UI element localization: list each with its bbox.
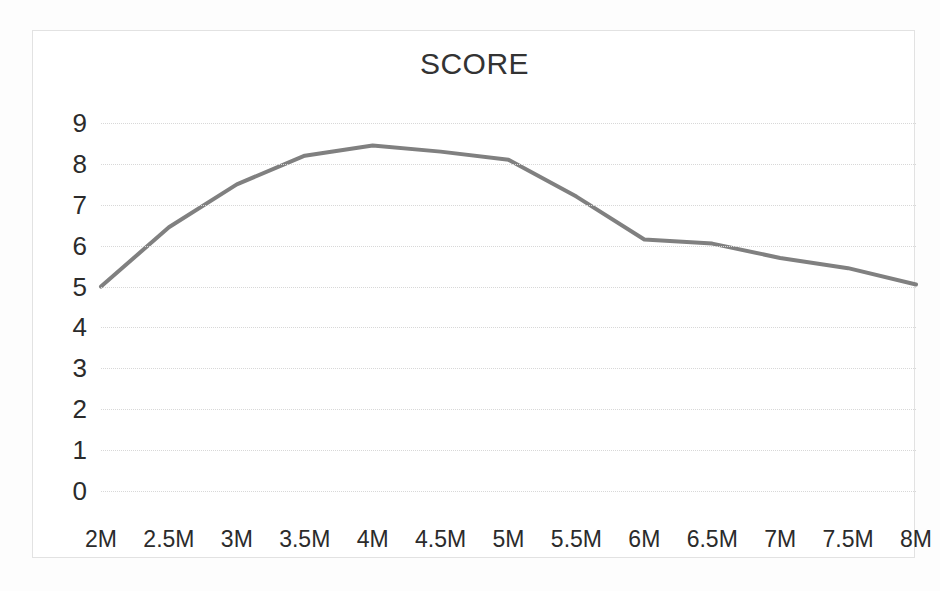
gridline-y-5 xyxy=(101,287,916,288)
gridline-y-2 xyxy=(101,409,916,410)
plot-area: 9876543210 xyxy=(101,123,916,491)
score-line-series xyxy=(101,123,916,491)
x-axis-tick-label: 5.5M xyxy=(551,528,602,551)
gridline-y-7 xyxy=(101,205,916,206)
x-axis-tick-label: 3.5M xyxy=(279,528,330,551)
gridline-y-4 xyxy=(101,327,916,328)
x-axis-tick-labels: 2M2.5M3M3.5M4M4.5M5M5.5M6M6.5M7M7.5M8M xyxy=(101,528,916,562)
chart-title: SCORE xyxy=(33,49,916,79)
x-axis-tick-label: 2.5M xyxy=(143,528,194,551)
x-axis-tick-label: 5M xyxy=(493,528,525,551)
chart-frame: SCORE 9876543210 2M2.5M3M3.5M4M4.5M5M5.5… xyxy=(32,30,915,558)
gridline-y-0 xyxy=(101,491,916,492)
x-axis-tick-label: 4.5M xyxy=(415,528,466,551)
y-axis-tick-label: 8 xyxy=(73,151,87,177)
page-background: SCORE 9876543210 2M2.5M3M3.5M4M4.5M5M5.5… xyxy=(0,0,940,591)
x-axis-tick-label: 7.5M xyxy=(823,528,874,551)
figure-caption xyxy=(0,566,940,580)
gridline-y-3 xyxy=(101,368,916,369)
y-axis-tick-label: 4 xyxy=(73,314,87,340)
x-axis-tick-label: 4M xyxy=(357,528,389,551)
y-axis-tick-label: 9 xyxy=(73,110,87,136)
x-axis-tick-label: 3M xyxy=(221,528,253,551)
y-axis-tick-label: 6 xyxy=(73,233,87,259)
y-axis-tick-label: 1 xyxy=(73,437,87,463)
y-axis-tick-label: 0 xyxy=(73,478,87,504)
y-axis-tick-label: 7 xyxy=(73,192,87,218)
y-axis-tick-label: 2 xyxy=(73,396,87,422)
y-axis-tick-label: 5 xyxy=(73,274,87,300)
x-axis-tick-label: 6.5M xyxy=(687,528,738,551)
y-axis-tick-label: 3 xyxy=(73,355,87,381)
gridline-y-1 xyxy=(101,450,916,451)
x-axis-tick-label: 6M xyxy=(628,528,660,551)
x-axis-tick-label: 2M xyxy=(85,528,117,551)
gridline-y-8 xyxy=(101,164,916,165)
x-axis-tick-label: 8M xyxy=(900,528,932,551)
gridline-y-9 xyxy=(101,123,916,124)
x-axis-tick-label: 7M xyxy=(764,528,796,551)
gridline-y-6 xyxy=(101,246,916,247)
